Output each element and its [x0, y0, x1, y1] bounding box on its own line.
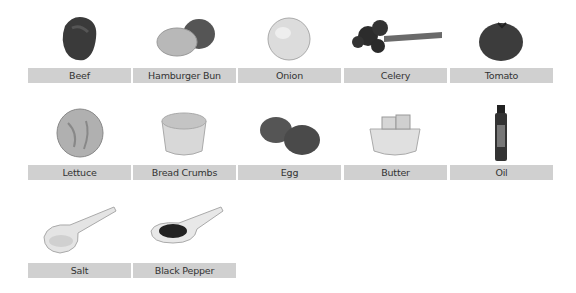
ingredient-label: Hamburger Bun — [133, 68, 236, 83]
beef-icon — [28, 6, 131, 68]
ingredient-label: Tomato — [450, 68, 553, 83]
salt-icon — [28, 201, 131, 263]
ingredient-label: Lettuce — [28, 165, 131, 180]
ingredient-label: Egg — [238, 165, 341, 180]
ingredient-label: Bread Crumbs — [133, 165, 236, 180]
celery-icon — [344, 6, 447, 68]
hamburger-bun-icon — [133, 6, 236, 68]
ingredient-label: Salt — [28, 263, 131, 278]
ingredient-label: Onion — [238, 68, 341, 83]
lettuce-icon — [28, 103, 131, 165]
ingredient-label: Celery — [344, 68, 447, 83]
ingredient-label: Butter — [344, 165, 447, 180]
ingredient-label: Beef — [28, 68, 131, 83]
oil-icon — [450, 103, 553, 165]
black-pepper-icon — [133, 201, 236, 263]
butter-icon — [344, 103, 447, 165]
bread-crumbs-icon — [133, 103, 236, 165]
ingredient-label: Black Pepper — [133, 263, 236, 278]
egg-icon — [238, 103, 341, 165]
onion-icon — [238, 6, 341, 68]
tomato-icon — [450, 6, 553, 68]
ingredient-label: Oil — [450, 165, 553, 180]
